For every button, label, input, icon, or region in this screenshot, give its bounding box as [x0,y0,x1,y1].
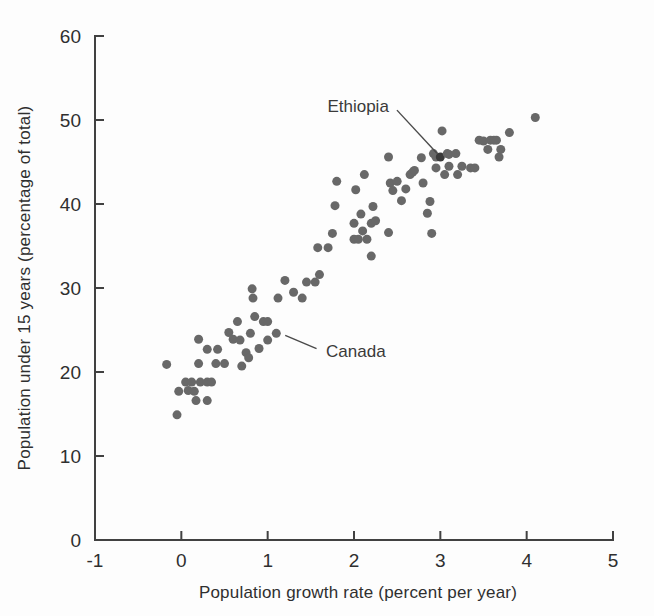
annotation-label: Canada [326,342,386,361]
scatter-point [263,336,272,345]
y-axis-tick-marks [95,36,104,540]
y-tick-label: 40 [60,194,81,215]
scatter-point [384,152,393,161]
scatter-point [432,163,441,172]
scatter-points-group [162,113,540,419]
scatter-point [203,396,212,405]
scatter-point [248,294,257,303]
scatter-point [350,219,359,228]
scatter-point [313,243,322,252]
scatter-point [360,170,369,179]
y-axis-tick-labels: 0102030405060 [60,26,81,551]
scatter-point [483,145,492,154]
scatter-point [444,162,453,171]
scatter-point [438,126,447,135]
scatter-point [173,410,182,419]
scatter-point [328,229,337,238]
x-tick-label: 1 [262,550,273,571]
scatter-point [410,166,419,175]
scatter-point [174,387,183,396]
scatter-point [194,359,203,368]
scatter-point [207,378,216,387]
x-tick-label: 4 [521,550,532,571]
scatter-point [233,317,242,326]
scatter-point [388,186,397,195]
scatter-point [298,294,307,303]
y-axis-title: Population under 15 years (percentage of… [15,106,34,471]
scatter-point [397,196,406,205]
scatter-point [272,329,281,338]
x-tick-label: 5 [608,550,619,571]
scatter-point [194,335,203,344]
scatter-point [354,235,363,244]
scatter-point [496,145,505,154]
scatter-point [457,162,466,171]
scatter-point [423,209,432,218]
plot-svg: -1012345 0102030405060 EthiopiaCanada Po… [0,0,654,616]
scatter-point [237,362,246,371]
y-tick-label: 0 [70,530,81,551]
x-axis-title: Population growth rate (percent per year… [199,583,517,602]
scatter-point [315,270,324,279]
scatter-point [368,202,377,211]
scatter-point [255,344,264,353]
scatter-point [250,312,259,321]
y-tick-label: 50 [60,110,81,131]
scatter-point [220,359,229,368]
scatter-point [162,360,171,369]
annotation-label: Ethiopia [327,97,389,116]
scatter-point [203,345,212,354]
x-tick-label: 2 [349,550,360,571]
scatter-point [492,136,501,145]
scatter-point [289,288,298,297]
x-tick-label: -1 [87,550,104,571]
y-tick-label: 10 [60,446,81,467]
scatter-point [427,229,436,238]
scatter-point [505,128,514,137]
x-axis-tick-labels: -1012345 [87,550,619,571]
annotation-leader-line [397,110,437,153]
scatter-point [470,163,479,172]
scatter-point [302,278,311,287]
scatter-point [367,252,376,261]
scatter-point [274,294,283,303]
scatter-point [236,336,245,345]
scatter-point [362,235,371,244]
scatter-point [331,201,340,210]
scatter-point [356,210,365,219]
scatter-point [531,113,540,122]
scatter-point [263,317,272,326]
scatter-point [453,170,462,179]
scatter-point [332,177,341,186]
scatter-point [495,152,504,161]
scatter-point [244,353,253,362]
scatter-point [187,378,196,387]
scatter-point [425,197,434,206]
x-tick-label: 0 [176,550,187,571]
scatter-point [384,228,393,237]
y-tick-label: 30 [60,278,81,299]
scatter-point [324,243,333,252]
x-axis-tick-marks [95,531,613,540]
scatter-point [248,284,257,293]
scatter-point [351,185,360,194]
annotation-leader-line [285,335,316,348]
scatter-point [211,359,220,368]
y-tick-label: 20 [60,362,81,383]
scatter-point [358,226,367,235]
scatter-point [246,329,255,338]
x-tick-label: 3 [435,550,446,571]
scatter-point [371,216,380,225]
scatter-point [440,170,449,179]
scatter-point [451,149,460,158]
scatter-point [280,276,289,285]
scatter-point [417,153,426,162]
scatter-point [419,179,428,188]
scatter-chart-figure: -1012345 0102030405060 EthiopiaCanada Po… [0,0,654,616]
scatter-point [190,387,199,396]
scatter-point [401,184,410,193]
scatter-point [311,278,320,287]
scatter-point [192,396,201,405]
scatter-point [213,345,222,354]
scatter-point [393,177,402,186]
